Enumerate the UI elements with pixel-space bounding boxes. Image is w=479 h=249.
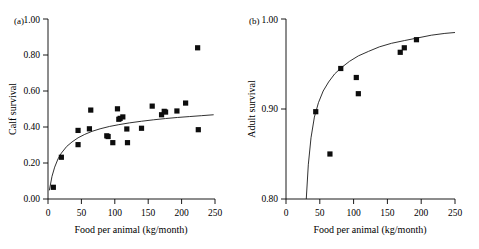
data-point [195, 45, 200, 50]
data-point [59, 155, 64, 160]
panel-b-xtick-2: 100 [346, 208, 361, 218]
data-point [402, 45, 407, 50]
panel-b: (b) 0.80 0.90 1.00 0 50 100 [239, 0, 479, 249]
panel-a-ylabel: Calf survival [7, 83, 18, 135]
panel-a-xtick-0: 0 [46, 208, 51, 218]
panel-a-ytick-3: 0.60 [23, 86, 40, 96]
data-point [87, 126, 92, 131]
data-point [163, 109, 168, 114]
figure-two-panel-scatter: (a) 0.00 0.20 0.40 0.60 0.80 1.00 [0, 0, 479, 249]
panel-b-plot: (b) 0.80 0.90 1.00 0 50 100 [239, 0, 479, 249]
data-point [174, 108, 179, 113]
panel-a-xtick-5: 250 [208, 208, 223, 218]
panel-a-xtick-1: 50 [77, 208, 87, 218]
panel-b-xtick-5: 250 [448, 208, 463, 218]
panel-a-plot: (a) 0.00 0.20 0.40 0.60 0.80 1.00 [0, 0, 239, 249]
panel-b-ytick-1: 0.90 [261, 104, 278, 114]
data-point [125, 140, 130, 145]
panel-b-ylabel: Adult survival [246, 80, 257, 138]
data-point [88, 107, 93, 112]
panel-a-ytick-5: 1.00 [23, 15, 40, 25]
panel-b-xtick-3: 150 [380, 208, 395, 218]
data-point [75, 142, 80, 147]
data-point [124, 126, 129, 131]
panel-a-ytick-0: 0.00 [23, 194, 40, 204]
data-point [120, 114, 125, 119]
panel-a: (a) 0.00 0.20 0.40 0.60 0.80 1.00 [0, 0, 239, 249]
data-point [338, 66, 343, 71]
panel-b-xtick-4: 200 [414, 208, 429, 218]
data-point [356, 91, 361, 96]
data-point [398, 50, 403, 55]
panel-a-x-ticks: 0 50 100 150 200 250 [46, 199, 223, 218]
panel-b-xlabel: Food per animal (kg/month) [313, 224, 426, 236]
panel-a-xlabel: Food per animal (kg/month) [74, 224, 187, 236]
panel-a-ytick-1: 0.20 [23, 158, 40, 168]
panel-a-xtick-2: 100 [108, 208, 123, 218]
data-point [327, 151, 332, 156]
data-point [183, 100, 188, 105]
panel-b-tag: (b) [249, 16, 260, 26]
data-point [110, 140, 115, 145]
data-point [196, 127, 201, 132]
data-point [106, 134, 111, 139]
panel-b-xtick-1: 50 [315, 208, 325, 218]
data-point [139, 126, 144, 131]
panel-a-xtick-3: 150 [141, 208, 156, 218]
panel-b-data-points [313, 37, 419, 156]
data-point [414, 37, 419, 42]
data-point [75, 128, 80, 133]
data-point [354, 75, 359, 80]
data-point [150, 104, 155, 109]
data-point [313, 109, 318, 114]
panel-a-ytick-4: 0.80 [23, 50, 40, 60]
panel-b-fit-curve [306, 33, 455, 200]
data-point [51, 185, 56, 190]
panel-b-ytick-0: 0.80 [261, 194, 278, 204]
data-point [115, 106, 120, 111]
panel-a-xtick-4: 200 [174, 208, 189, 218]
panel-a-fit-curve [49, 115, 213, 191]
panel-b-x-ticks: 0 50 100 150 200 250 [284, 199, 463, 218]
panel-a-y-ticks: 0.00 0.20 0.40 0.60 0.80 1.00 [23, 15, 48, 204]
panel-a-ytick-2: 0.40 [23, 122, 40, 132]
panel-b-y-ticks: 0.80 0.90 1.00 [261, 15, 286, 204]
panel-b-ytick-2: 1.00 [261, 15, 278, 25]
panel-b-xtick-0: 0 [284, 208, 289, 218]
